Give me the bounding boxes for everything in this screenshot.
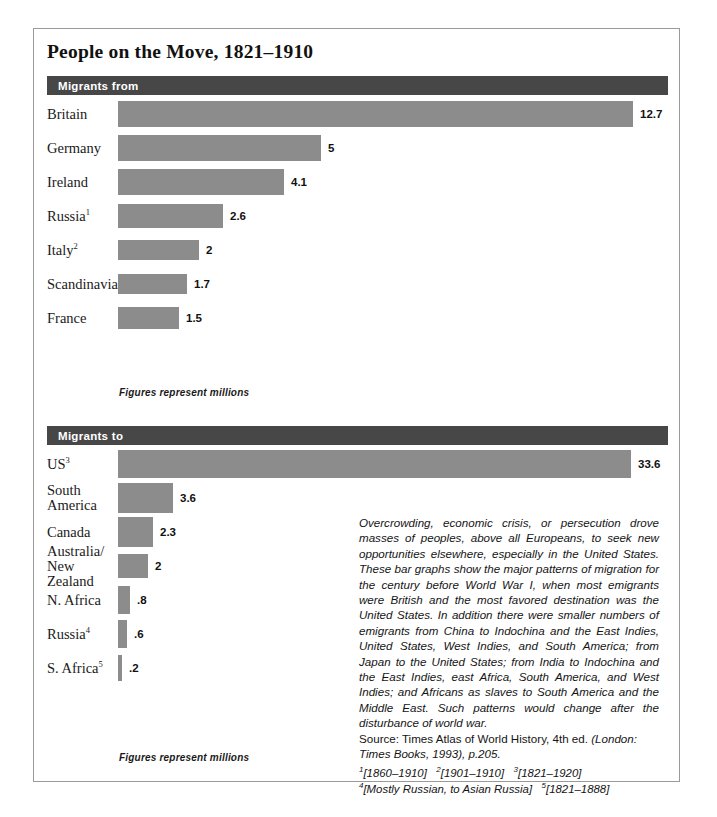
bar-value-label: 1.5 — [186, 312, 202, 324]
bar-value-label: 5 — [328, 142, 334, 154]
bar-fill — [118, 450, 631, 478]
note-source-prefix: Source: Times Atlas of World History, 4t… — [359, 732, 591, 745]
footnote-marker: 3 — [514, 765, 518, 774]
bar-fill — [118, 240, 199, 260]
bar-row: Germany5 — [34, 131, 679, 165]
footnote-marker: 2 — [436, 765, 440, 774]
bar-fill — [118, 655, 122, 681]
bar-value-label: 1.7 — [194, 278, 210, 290]
bar-value-label: 12.7 — [640, 108, 662, 120]
bar-value-label: .8 — [137, 594, 147, 606]
bar-row: France1.5 — [34, 301, 679, 335]
bar-fill — [118, 517, 153, 547]
chart-caption-to: Figures represent millions — [119, 752, 249, 763]
bar-label: Germany — [47, 141, 117, 156]
bar-fill — [118, 135, 321, 161]
bar-row: Scandinavia1.7 — [34, 267, 679, 301]
bar-label: Ireland — [47, 175, 117, 190]
bar-row: Russia12.6 — [34, 199, 679, 233]
bar-value-label: 3.6 — [180, 492, 196, 504]
bar-row: Ireland4.1 — [34, 165, 679, 199]
bar-fill — [118, 101, 633, 127]
note-panel: Overcrowding, economic crisis, or persec… — [359, 515, 659, 797]
bar-fill — [118, 307, 179, 329]
bar-label: US3 — [47, 457, 117, 472]
bar-value-label: 2 — [206, 244, 212, 256]
footnote-marker: 4 — [359, 781, 363, 790]
bar-label: N. Africa — [47, 593, 117, 608]
bar-fill — [118, 274, 187, 294]
bar-value-label: .6 — [134, 628, 144, 640]
note-footnote-line-1: 1[1860–1910] 2[1901–1910] 3[1821–1920] — [359, 765, 659, 781]
page-title: People on the Move, 1821–1910 — [47, 41, 313, 63]
chart-caption-from: Figures represent millions — [119, 387, 249, 398]
bar-value-label: 2.6 — [230, 210, 246, 222]
bar-fill — [118, 554, 148, 578]
section-header-label: Migrants from — [58, 80, 139, 92]
figure-frame: People on the Move, 1821–1910 Migrants f… — [33, 28, 680, 782]
section-header-label: Migrants to — [58, 430, 123, 442]
bar-label: Russia4 — [47, 627, 117, 642]
bar-value-label: 2 — [155, 560, 161, 572]
bar-fill — [118, 483, 173, 513]
bar-fill — [118, 586, 130, 614]
bar-label-footnote-marker: 1 — [86, 207, 90, 217]
bar-label: Canada — [47, 525, 117, 540]
bar-row: Italy22 — [34, 233, 679, 267]
bar-value-label: 4.1 — [291, 176, 307, 188]
bar-fill — [118, 169, 284, 195]
bar-label-footnote-marker: 4 — [86, 625, 90, 635]
bar-row: South America3.6 — [34, 481, 679, 515]
bar-value-label: 2.3 — [160, 526, 176, 538]
bar-row: US333.6 — [34, 447, 679, 481]
bar-label: Britain — [47, 107, 117, 122]
note-body: Overcrowding, economic crisis, or persec… — [359, 515, 659, 731]
footnote-marker: 1 — [359, 765, 363, 774]
bar-row: Britain12.7 — [34, 97, 679, 131]
bar-value-label: 33.6 — [638, 458, 660, 470]
bar-label: Italy2 — [47, 243, 117, 258]
bar-label: Russia1 — [47, 209, 117, 224]
bar-label-footnote-marker: 2 — [74, 241, 78, 251]
note-source: Source: Times Atlas of World History, 4t… — [359, 731, 659, 762]
bar-label: France — [47, 311, 117, 326]
bar-fill — [118, 204, 223, 228]
section-header-migrants-from: Migrants from — [47, 76, 668, 95]
footnote-marker: 5 — [542, 781, 546, 790]
bar-label-footnote-marker: 5 — [99, 659, 103, 669]
note-footnote-line-2: 4[Mostly Russian, to Asian Russia] 5[182… — [359, 781, 659, 797]
section-header-migrants-to: Migrants to — [47, 426, 668, 445]
bar-fill — [118, 620, 127, 648]
bar-value-label: .2 — [129, 662, 139, 674]
bar-label: Australia/ New Zealand — [47, 544, 117, 589]
bar-label-footnote-marker: 3 — [66, 455, 70, 465]
bar-label: South America — [47, 483, 117, 513]
bar-label: Scandinavia — [47, 277, 117, 292]
bar-label: S. Africa5 — [47, 661, 117, 676]
